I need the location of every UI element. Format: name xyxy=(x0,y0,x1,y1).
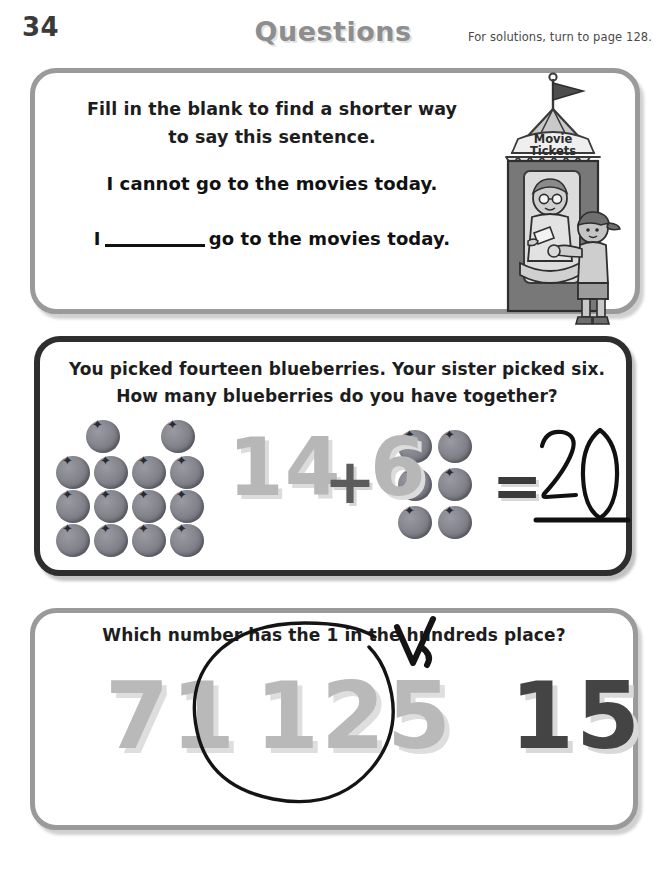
blueberry: ✦ xyxy=(132,456,166,489)
blueberry: ✦ xyxy=(170,456,204,489)
blank-prefix: I xyxy=(94,228,101,249)
movie-ticket-booth-illustration: Movie Tickets xyxy=(490,65,640,325)
blueberry: ✦ xyxy=(132,524,166,557)
berry-crown-icon: ✦ xyxy=(62,524,74,534)
berry-crown-icon: ✦ xyxy=(92,420,104,430)
blueberry: ✦ xyxy=(438,430,472,463)
blueberry: ✦ xyxy=(56,524,90,557)
berry-crown-icon: ✦ xyxy=(138,456,150,466)
blueberry: ✦ xyxy=(438,468,472,501)
blueberry-group-left: ✦ ✦ ✦ ✦ ✦ ✦ ✦ ✦ ✦ ✦ ✦ ✦ ✦ ✦ xyxy=(56,420,224,556)
berry-crown-icon: ✦ xyxy=(62,456,74,466)
question-box-1: Fill in the blank to find a shorter way … xyxy=(30,68,640,314)
blank-answer-field[interactable] xyxy=(105,244,205,247)
question-2-prompt: You picked fourteen blueberries. Your si… xyxy=(60,356,614,410)
blueberry: ✦ xyxy=(94,456,128,489)
page-header: 34 Questions For solutions, turn to page… xyxy=(0,0,666,56)
equation-right-operand: 6 xyxy=(370,428,427,508)
choice-option-125[interactable]: 125 xyxy=(255,671,453,763)
blueberry: ✦ xyxy=(161,420,195,453)
berry-crown-icon: ✦ xyxy=(167,420,179,430)
question-box-2: You picked fourteen blueberries. Your si… xyxy=(34,336,632,576)
blueberry: ✦ xyxy=(56,456,90,489)
berry-crown-icon: ✦ xyxy=(138,490,150,500)
blueberry: ✦ xyxy=(94,490,128,523)
berry-crown-icon: ✦ xyxy=(176,456,188,466)
blueberry: ✦ xyxy=(170,490,204,523)
booth-sign-line2: Tickets xyxy=(530,144,576,158)
blueberry: ✦ xyxy=(438,506,472,539)
berry-crown-icon: ✦ xyxy=(100,456,112,466)
blueberry: ✦ xyxy=(56,490,90,523)
choice-option-15[interactable]: 15 xyxy=(510,671,642,763)
blueberry: ✦ xyxy=(132,490,166,523)
berry-crown-icon: ✦ xyxy=(444,430,456,440)
berry-crown-icon: ✦ xyxy=(100,490,112,500)
blueberry: ✦ xyxy=(94,524,128,557)
question-1-sentence: I cannot go to the movies today. xyxy=(77,173,467,194)
blueberry: ✦ xyxy=(86,420,120,453)
question-1-prompt: Fill in the blank to find a shorter way … xyxy=(77,95,467,151)
berry-crown-icon: ✦ xyxy=(176,490,188,500)
berry-crown-icon: ✦ xyxy=(62,490,74,500)
question-1-fill-in-line: Igo to the movies today. xyxy=(77,228,467,249)
question-box-3: Which number has the 1 in the hundreds p… xyxy=(30,608,638,830)
berry-crown-icon: ✦ xyxy=(138,524,150,534)
blueberry: ✦ xyxy=(170,524,204,557)
blank-suffix: go to the movies today. xyxy=(209,228,451,249)
equation-plus-operator: + xyxy=(324,442,377,522)
choice-option-71[interactable]: 71 xyxy=(105,671,237,763)
berry-crown-icon: ✦ xyxy=(100,524,112,534)
berry-crown-icon: ✦ xyxy=(444,468,456,478)
handwritten-answer-20[interactable] xyxy=(530,420,640,540)
question-3-prompt: Which number has the 1 in the hundreds p… xyxy=(35,625,633,645)
berry-crown-icon: ✦ xyxy=(176,524,188,534)
berry-crown-icon: ✦ xyxy=(444,506,456,516)
solutions-note: For solutions, turn to page 128. xyxy=(468,30,652,44)
